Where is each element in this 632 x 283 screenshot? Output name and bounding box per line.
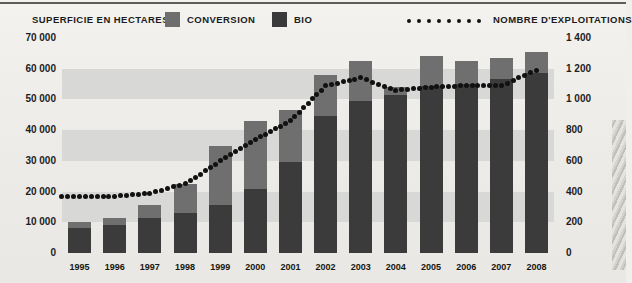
line-dot [130,192,135,197]
line-dot [319,88,324,93]
bar-column[interactable] [314,75,337,253]
legend-dot [477,19,481,23]
bar-segment-bio [384,95,407,253]
line-dot [446,84,451,89]
bar-column[interactable] [174,184,197,253]
line-dot [159,188,164,193]
line-dot [71,194,76,199]
line-dot [95,194,100,199]
bar-segment-conversion [490,58,513,80]
line-dot [263,132,268,137]
line-dot [136,192,141,197]
line-dot [347,78,352,83]
bar-column[interactable] [103,218,126,253]
line-dot [233,149,238,154]
line-dot [243,143,248,148]
bar-segment-bio [420,86,443,253]
legend-label-conversion: CONVERSION [187,14,255,25]
line-dot [101,194,106,199]
line-dot [464,83,469,88]
line-dot [268,129,273,134]
line-dot [238,146,243,151]
line-dot [213,162,218,167]
line-dot [341,79,346,84]
bar-column[interactable] [138,205,161,253]
line-dot [177,183,182,188]
line-dot [499,83,504,88]
line-dot [382,84,387,89]
bar-segment-bio [68,228,91,253]
line-dot [112,194,117,199]
line-dot [223,155,228,160]
bar-column[interactable] [525,52,548,253]
line-dot [534,68,539,73]
bar-segment-conversion [455,61,478,84]
legend-dot [417,19,421,23]
plot-area [62,38,554,253]
line-dot [193,175,198,180]
line-dot [183,181,188,186]
legend-dotted-line-icon [407,19,487,25]
bar-segment-bio [244,189,267,254]
line-dot [297,110,302,115]
line-dot [470,83,475,88]
legend-dot [457,19,461,23]
legend-dot [427,19,431,23]
bar-column[interactable] [455,61,478,253]
line-dot [493,83,498,88]
line-dot [335,81,340,86]
legend-label-exploitations: NOMBRE D'EXPLOITATIONS [493,14,632,25]
line-dot [329,82,334,87]
line-dot [376,82,381,87]
bar-column[interactable] [384,87,407,253]
bar-segment-bio [209,205,232,253]
line-dot [77,194,82,199]
line-dot [124,193,129,198]
legend-dot [447,19,451,23]
bar-segment-bio [314,116,337,253]
line-dot [89,194,94,199]
line-dot [283,121,288,126]
line-dot [306,101,311,106]
line-dot [228,152,233,157]
line-dot [203,168,208,173]
line-dot [388,86,393,91]
bar-segment-bio [138,218,161,253]
line-dot [405,87,410,92]
line-dot [198,172,203,177]
bar-segment-bio [525,73,548,253]
line-dot [83,194,88,199]
line-dot [65,194,70,199]
bar-segment-conversion [103,218,126,226]
page-edge-decoration [612,120,626,270]
line-dot [59,194,64,199]
line-dot [505,81,510,86]
bar-column[interactable] [279,110,302,253]
line-dot [423,85,428,90]
line-dot [188,178,193,183]
bar-segment-bio [279,162,302,253]
chart-legend: SUPERFICIE EN HECTARES CONVERSION BIO NO… [0,10,626,30]
bar-segment-bio [349,101,372,253]
line-dot [253,137,258,142]
legend-dot [407,19,411,23]
line-dot [452,84,457,89]
line-dot [248,140,253,145]
bar-segment-conversion [138,205,161,217]
bar-column[interactable] [68,222,91,253]
bar-column[interactable] [349,61,372,253]
legend-swatch-conversion [165,12,180,27]
bar-segment-bio [455,84,478,253]
bar-segment-conversion [174,184,197,213]
legend-swatch-bio [272,12,287,27]
bars-layer [62,38,554,253]
legend-dot [437,19,441,23]
line-dot [370,80,375,85]
bar-segment-conversion [68,222,91,228]
line-dot [429,85,434,90]
bar-segment-conversion [420,56,443,85]
legend-left-title: SUPERFICIE EN HECTARES [32,14,169,25]
line-dot [278,124,283,129]
line-dot [165,186,170,191]
